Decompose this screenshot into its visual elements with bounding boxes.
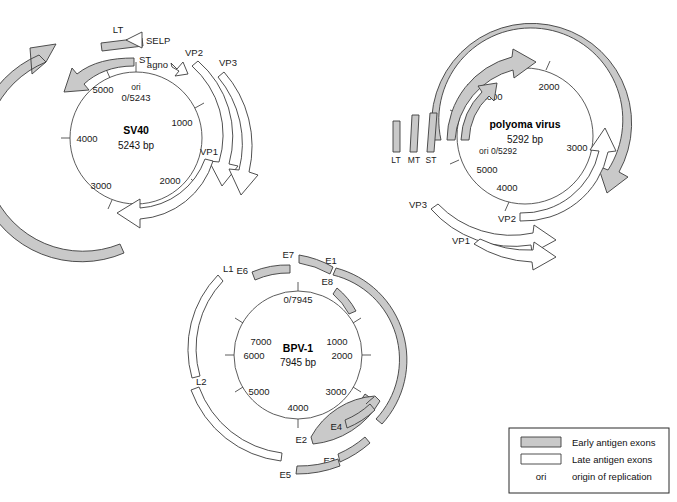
polyoma-feature-st-label: ST xyxy=(426,155,437,165)
sv40-feature-lt-arc xyxy=(0,44,124,262)
sv40-feature-vp2-arc xyxy=(192,61,238,186)
polyoma-feature-vp1-label: VP2 xyxy=(498,213,516,224)
polyoma-feature-lt-bar xyxy=(393,121,400,152)
legend-swatch-late xyxy=(521,454,561,464)
sv40-feature-agno-arrow xyxy=(171,62,188,76)
sv40-feature-agno-label: agno xyxy=(147,59,168,70)
bpv1-genome-size: 7945 bp xyxy=(280,357,317,368)
sv40-genome-size: 5243 bp xyxy=(118,140,155,151)
bpv1-feature-e5-arc xyxy=(296,459,340,474)
polyoma-tick-5000: 5000 xyxy=(476,164,497,175)
bpv1-feature-e2-label: E2 xyxy=(295,434,307,445)
bpv1-feature-e3-arc xyxy=(338,437,370,462)
bpv1-ori-coord: 0/7945 xyxy=(283,294,312,305)
sv40-feature-lt-label: LT xyxy=(113,24,124,35)
sv40-ori-coord: 0/5243 xyxy=(121,92,150,103)
legend-swatch-early xyxy=(521,437,561,447)
bpv1-tick-7000: 7000 xyxy=(250,336,271,347)
polyoma-feature-st-bar xyxy=(427,113,437,152)
bpv1-tick-1000: 1000 xyxy=(326,336,347,347)
bpv1-feature-l2-label: L2 xyxy=(196,376,207,387)
sv40-tick-4000: 4000 xyxy=(76,133,97,144)
polyoma-tick-3000: 3000 xyxy=(566,142,587,153)
figure-canvas: ori 0/5243 1000 2000 3000 4000 5000 SV40… xyxy=(0,0,677,502)
bpv1-feature-l1-arc xyxy=(188,275,223,378)
sv40-feature-selp-label: SELP xyxy=(146,35,170,46)
polyoma-tick-4000: 4000 xyxy=(496,182,517,193)
legend-label-ori: origin of replication xyxy=(572,471,652,482)
polyoma-feature-vp3-label: VP1 xyxy=(452,235,470,246)
genome-maps-svg: ori 0/5243 1000 2000 3000 4000 5000 SV40… xyxy=(0,0,677,502)
legend-swatch-ori: ori xyxy=(536,471,547,482)
bpv1-tick-3000: 3000 xyxy=(325,386,346,397)
bpv1-tick-4000: 4000 xyxy=(287,402,308,413)
polyoma-feature-vp2-label: VP3 xyxy=(409,199,427,210)
bpv1-feature-e6-label: E6 xyxy=(236,265,248,276)
bpv1-tick-5000: 5000 xyxy=(248,386,269,397)
polyoma-tick-2000: 2000 xyxy=(538,81,559,92)
polyoma-feature-mt-label: MT xyxy=(408,155,420,165)
polyoma-feature-mt-bar xyxy=(410,115,419,152)
bpv1-genome-name: BPV-1 xyxy=(283,342,314,354)
genome-map-polyoma: 1000 2000 3000 4000 5000 ori 0/5292 poly… xyxy=(391,23,631,270)
bpv1-feature-l1-label: L1 xyxy=(223,263,234,274)
bpv1-feature-e4-label: E4 xyxy=(330,421,342,432)
legend-label-early: Early antigen exons xyxy=(572,437,656,448)
sv40-feature-vp1-label: VP1 xyxy=(200,146,218,157)
bpv1-feature-l2-arc xyxy=(191,387,282,461)
genome-map-sv40: ori 0/5243 1000 2000 3000 4000 5000 SV40… xyxy=(0,24,258,262)
sv40-tick-3000: 3000 xyxy=(90,180,111,191)
sv40-tick-5000: 5000 xyxy=(92,84,113,95)
genome-map-bpv1: 0/7945 1000 2000 3000 4000 5000 6000 700… xyxy=(188,249,407,480)
bpv1-feature-e5-label: E5 xyxy=(279,469,291,480)
bpv1-feature-e6-arc xyxy=(252,265,290,280)
sv40-tick-2000: 2000 xyxy=(159,175,180,186)
bpv1-feature-e8-arc xyxy=(333,288,356,314)
legend: Early antigen exons Late antigen exons o… xyxy=(509,428,669,493)
sv40-genome-name: SV40 xyxy=(123,124,149,136)
bpv1-tick-6000: 6000 xyxy=(243,350,264,361)
polyoma-genome-name: polyoma virus xyxy=(489,118,560,130)
sv40-feature-vp3-label: VP3 xyxy=(219,57,237,68)
bpv1-tick-2000: 2000 xyxy=(331,350,352,361)
sv40-ori-label: ori xyxy=(131,82,141,92)
bpv1-feature-e8-label: E8 xyxy=(321,276,333,287)
polyoma-ori-label: ori 0/5292 xyxy=(479,146,517,156)
sv40-feature-vp1-arc xyxy=(117,159,213,228)
polyoma-feature-lt-label: LT xyxy=(391,155,400,165)
bpv1-feature-e7-label: E7 xyxy=(282,249,294,260)
legend-label-late: Late antigen exons xyxy=(572,454,653,465)
polyoma-genome-size: 5292 bp xyxy=(507,134,544,145)
sv40-tick-1000: 1000 xyxy=(171,117,192,128)
sv40-feature-vp2-label: VP2 xyxy=(185,47,203,58)
